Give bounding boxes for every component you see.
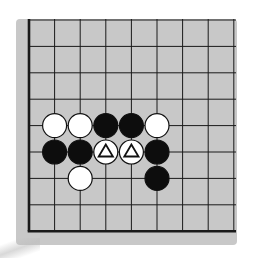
go-board	[0, 0, 255, 258]
white-stone	[68, 114, 92, 138]
white-stone	[68, 166, 92, 190]
black-stone	[68, 140, 92, 164]
black-stone	[145, 140, 169, 164]
black-stone	[119, 114, 143, 138]
page-shadow	[0, 238, 40, 258]
black-stone	[43, 140, 67, 164]
white-stone-triangle-marked	[94, 140, 118, 164]
white-stone	[43, 114, 67, 138]
black-stone	[145, 166, 169, 190]
white-stone	[145, 114, 169, 138]
white-stone-triangle-marked	[119, 140, 143, 164]
black-stone	[94, 114, 118, 138]
